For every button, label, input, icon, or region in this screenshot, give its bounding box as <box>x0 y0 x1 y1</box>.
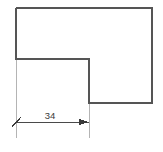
dimension-label-width: 34 <box>45 110 56 121</box>
technical-drawing-canvas: 34 <box>0 0 163 152</box>
shape-outline-notched-rectangle <box>16 8 152 103</box>
drawing-svg: 34 <box>0 0 163 152</box>
dimension-arrowhead-right <box>79 119 89 125</box>
